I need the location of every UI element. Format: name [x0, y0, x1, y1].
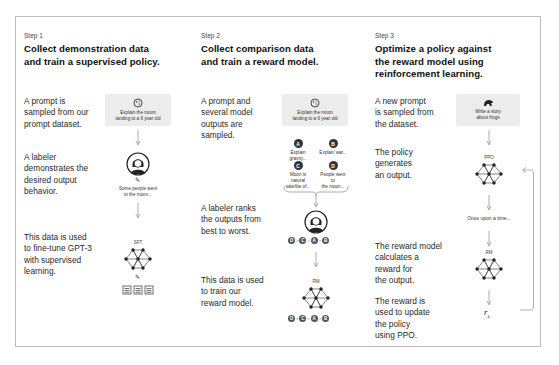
step-2-desc-train: This data is usedto train ourreward mode… [201, 275, 264, 309]
policy-output: Once upon a time... [459, 215, 519, 221]
output-b: B Explain war... [318, 139, 348, 156]
documents-icon [122, 285, 154, 295]
arrow-down-icon [135, 130, 141, 146]
step-3-desc-policy: The policygeneratesan output. [375, 147, 413, 181]
moon-icon [310, 98, 320, 108]
labeler-person-icon [126, 152, 150, 176]
rm-label: RM [479, 250, 499, 255]
step-1-demo-output: Some people wentto the moon... [112, 186, 164, 198]
arrow-down-icon [486, 290, 492, 306]
arrow-down-icon [135, 203, 141, 219]
pencil-icon: ✎ [135, 274, 140, 280]
step-1-desc-labeler: A labelerdemonstrates thedesired outputb… [24, 152, 88, 198]
ppo-label: PPO [479, 155, 499, 160]
neural-network-rm-icon [474, 257, 504, 281]
ranking-labeler: D> C> A> B [288, 237, 329, 244]
neural-network-ppo-icon [474, 162, 504, 186]
step-1-prompt-box: Explain the moon landing to a 6 year old [105, 94, 171, 126]
step-2-label: Step 2 [201, 32, 220, 39]
reward-value: rk [484, 307, 490, 319]
step-1-desc-finetune: This data is usedto fine-tune GPT-3with … [24, 232, 92, 278]
step-1-title: Collect demonstration data and train a s… [24, 43, 160, 68]
step-3-label: Step 3 [375, 32, 394, 39]
step-2-desc-prompt: A prompt andseveral modeloutputs aresamp… [201, 96, 253, 142]
neural-network-sft-icon [123, 247, 153, 271]
rm-label: RM [306, 279, 326, 284]
step-3-prompt-box: Write a story about frogs [456, 94, 520, 126]
ranking-rm: D> C> A> B [288, 315, 329, 322]
step-2-title: Collect comparison dataand train a rewar… [201, 43, 318, 68]
arrow-down-icon [313, 252, 319, 268]
pencil-icon: ✎ [135, 177, 140, 183]
step-3-desc-reward: The reward modelcalculates areward forth… [375, 241, 442, 287]
arrow-down-icon [486, 195, 492, 211]
step-3-desc-prompt: A new promptis sampled fromthe dataset. [375, 96, 434, 130]
step-2-desc-rank: A labeler ranksthe outputs frombest to w… [201, 203, 261, 237]
arrow-down-icon [486, 231, 492, 247]
step-2-prompt-box: Explain the moon landing to a 6 year old [282, 94, 348, 126]
bracket-arrow-icon [282, 186, 350, 208]
arrow-down-icon [486, 130, 492, 146]
step-1-desc-prompt: A prompt issampled from ourprompt datase… [24, 96, 89, 130]
step-1-label: Step 1 [24, 32, 43, 39]
labeler-person-icon [304, 210, 328, 234]
sft-label: SFT [128, 240, 148, 245]
output-a: A Explain gravity... [283, 139, 313, 162]
frog-icon [483, 99, 494, 107]
feedback-loop-arrow-icon [518, 166, 536, 318]
moon-icon [133, 98, 143, 108]
neural-network-rm-icon [301, 286, 331, 310]
step-3-title: Optimize a policy againstthe reward mode… [375, 43, 491, 81]
step-3-desc-update: The reward isused to updatethe policyusi… [375, 296, 430, 342]
